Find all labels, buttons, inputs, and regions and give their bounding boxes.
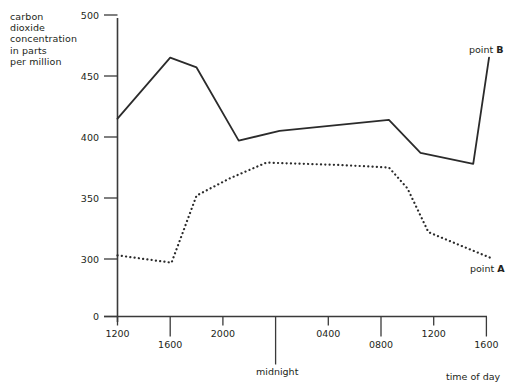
y-tick-label: 450: [81, 71, 99, 82]
x-tick-label: 1200: [105, 328, 129, 339]
x-axis-title: time of day: [446, 371, 500, 382]
x-tick-label: 0800: [369, 339, 393, 350]
series-line-point-a: [118, 163, 491, 263]
x-tick-label: 0400: [316, 328, 340, 339]
x-tick-label: 1200: [422, 328, 446, 339]
x-tick-label: 1600: [474, 339, 498, 350]
x-tick-label: 1600: [158, 339, 182, 350]
y-tick-label: 500: [81, 10, 99, 21]
series-group: [118, 58, 491, 263]
y-tick-label: 0: [93, 311, 99, 322]
y-tick-label: 350: [81, 193, 99, 204]
series-label-point-b: point B: [469, 44, 504, 55]
chart-page: carbon dioxide concentration in parts pe…: [0, 0, 516, 388]
x-tick-label: 2000: [211, 328, 235, 339]
series-label-point-b-letter: B: [496, 44, 503, 55]
x-ticks-group: 1200160020000400080012001600: [105, 317, 498, 365]
series-label-point-a-letter: A: [497, 263, 504, 274]
chart-plot: 0300350400450500 12001600200004000800120…: [0, 0, 516, 388]
y-ticks-group: 0300350400450500: [81, 10, 118, 323]
y-tick-label: 400: [81, 132, 99, 143]
y-tick-label: 300: [81, 254, 99, 265]
axes-group: [104, 18, 487, 322]
series-label-point-a: point A: [470, 263, 505, 274]
x-axis-midnight-label: midnight: [256, 366, 298, 377]
series-line-point-b: [118, 58, 490, 164]
